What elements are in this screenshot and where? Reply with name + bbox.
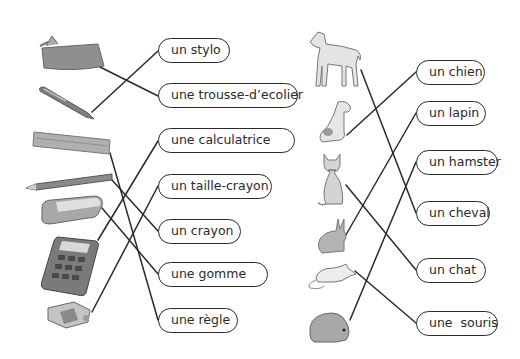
- line-souris: [355, 271, 416, 323]
- sharpener-icon: [44, 300, 94, 330]
- horse-icon: [304, 28, 364, 92]
- mouse-icon: [306, 262, 358, 290]
- label-une-souris[interactable]: une souris: [416, 311, 498, 336]
- label-une-calculatrice[interactable]: une calculatrice: [158, 128, 295, 153]
- label-un-taille-crayon[interactable]: un taille-crayon: [158, 174, 272, 199]
- label-un-lapin[interactable]: un lapin: [416, 101, 486, 126]
- line-trousse: [98, 66, 158, 96]
- eraser-icon: [38, 194, 106, 226]
- line-cheval: [361, 70, 416, 213]
- label-un-crayon[interactable]: un crayon: [158, 219, 241, 244]
- line-crayon: [112, 180, 158, 231]
- pencil-case-icon: [36, 32, 106, 74]
- label-un-stylo[interactable]: un stylo: [158, 38, 230, 63]
- hamster-icon: [306, 308, 352, 346]
- label-un-chien[interactable]: un chien: [416, 60, 485, 85]
- pencil-icon: [24, 172, 114, 192]
- ruler-icon: [32, 130, 112, 156]
- dog-icon: [316, 98, 356, 144]
- line-hamster: [350, 162, 416, 320]
- label-une-trousse-decolier[interactable]: une trousse-d’ecolier: [158, 83, 298, 108]
- label-une-gomme[interactable]: une gomme: [158, 262, 268, 287]
- pen-icon: [36, 85, 98, 121]
- line-regle: [110, 153, 158, 320]
- calculator-icon: [40, 235, 100, 297]
- label-un-hamster[interactable]: un hamster: [416, 150, 498, 175]
- line-gomme: [102, 208, 158, 274]
- matching-worksheet: un stylo une trousse-d’ecolier une calcu…: [0, 0, 520, 359]
- cat-icon: [318, 152, 350, 208]
- rabbit-icon: [316, 217, 348, 255]
- label-une-regle[interactable]: une règle: [158, 308, 238, 333]
- line-chat: [346, 185, 416, 270]
- label-un-cheval[interactable]: un cheval: [416, 201, 490, 226]
- label-un-chat[interactable]: un chat: [416, 258, 486, 283]
